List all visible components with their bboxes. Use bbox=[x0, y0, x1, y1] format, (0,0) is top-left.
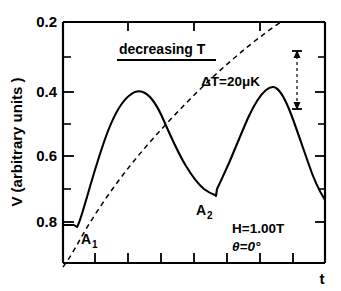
marker-a1-base: A bbox=[81, 231, 91, 247]
plot-svg: 0.2 0.4 0.6 0.8 decreasing T bbox=[0, 0, 341, 291]
y-tick-label-0_2: 0.2 bbox=[36, 13, 57, 30]
marker-a1: A 1 bbox=[81, 231, 98, 250]
decreasing-t-label: decreasing T bbox=[119, 41, 206, 57]
x-axis-ticks-top bbox=[128, 22, 260, 31]
y-tick-label-0_8: 0.8 bbox=[36, 213, 57, 230]
figure-root: 0.2 0.4 0.6 0.8 decreasing T bbox=[0, 0, 341, 291]
signal-curve-solid bbox=[63, 87, 325, 227]
axis-frame bbox=[63, 22, 325, 263]
marker-a2: A 2 bbox=[196, 202, 213, 221]
marker-a2-sub: 2 bbox=[207, 210, 213, 221]
y-axis-ticks bbox=[63, 22, 74, 222]
field-condition-label: H=1.00T bbox=[232, 221, 285, 236]
marker-a1-sub: 1 bbox=[92, 239, 98, 250]
angle-condition-label: θ=0° bbox=[232, 239, 261, 254]
delta-t-scale-bar bbox=[292, 50, 302, 110]
y-tick-label-0_4: 0.4 bbox=[36, 83, 58, 100]
y-tick-label-0_6: 0.6 bbox=[36, 147, 57, 164]
y-axis-title: V (arbitrary units ) bbox=[8, 77, 25, 206]
marker-a2-base: A bbox=[196, 202, 206, 218]
x-axis-title: t bbox=[320, 270, 325, 287]
x-axis-ticks bbox=[95, 253, 293, 263]
delta-t-label: ΔT=20μK bbox=[201, 74, 260, 89]
